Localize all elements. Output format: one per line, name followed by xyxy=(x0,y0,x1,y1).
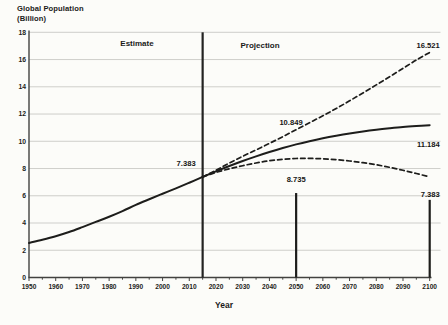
y-axis-title: Global Population (Billion) xyxy=(17,4,84,24)
x-tick-label-2080: 2080 xyxy=(369,283,384,290)
population-chart-page: 0246810121416181950196019701980199020002… xyxy=(0,0,448,325)
x-tick-label-1970: 1970 xyxy=(75,283,90,290)
y-axis-title-line1: Global Population xyxy=(17,4,84,14)
x-tick-label-1980: 1980 xyxy=(102,283,117,290)
annotation-low-2050: 8.735 xyxy=(287,175,307,184)
x-tick-label-2070: 2070 xyxy=(342,283,357,290)
x-tick-label-2060: 2060 xyxy=(316,283,331,290)
projection-region-label: Projection xyxy=(226,41,294,50)
annotation-high-2100: 16.521 xyxy=(416,41,440,50)
y-tick-label-4: 4 xyxy=(22,219,26,226)
y-tick-label-10: 10 xyxy=(18,138,26,145)
x-tick-label-2010: 2010 xyxy=(182,283,197,290)
annotation-low-2100: 7.383 xyxy=(421,190,440,199)
y-axis-title-line2: (Billion) xyxy=(17,14,84,24)
x-tick-label-2020: 2020 xyxy=(209,283,224,290)
y-tick-label-18: 18 xyxy=(18,29,26,36)
annotation-pop-2015: 7.383 xyxy=(177,159,196,168)
x-tick-label-2000: 2000 xyxy=(155,283,170,290)
y-tick-label-2: 2 xyxy=(22,247,26,254)
x-tick-label-2100: 2100 xyxy=(422,283,437,290)
y-tick-label-16: 16 xyxy=(18,56,26,63)
x-tick-label-2090: 2090 xyxy=(396,283,411,290)
estimate-region-label: Estimate xyxy=(103,39,171,48)
x-tick-label-1950: 1950 xyxy=(22,283,37,290)
chart-canvas: 0246810121416181950196019701980199020002… xyxy=(0,0,448,325)
y-tick-label-14: 14 xyxy=(18,83,26,90)
x-tick-label-2050: 2050 xyxy=(289,283,304,290)
annotation-high-2050: 10.849 xyxy=(279,118,302,127)
series-path-low-variant xyxy=(203,158,430,177)
x-axis-label: Year xyxy=(203,300,245,310)
y-tick-label-8: 8 xyxy=(22,165,26,172)
y-tick-label-0: 0 xyxy=(22,274,26,281)
y-tick-label-12: 12 xyxy=(18,110,26,117)
x-tick-label-2040: 2040 xyxy=(262,283,277,290)
annotation-medium-2100: 11.184 xyxy=(417,140,441,149)
x-tick-label-2030: 2030 xyxy=(235,283,250,290)
series-path-estimate xyxy=(29,177,203,243)
y-tick-label-6: 6 xyxy=(22,192,26,199)
x-tick-label-1960: 1960 xyxy=(48,283,63,290)
x-tick-label-1990: 1990 xyxy=(129,283,144,290)
